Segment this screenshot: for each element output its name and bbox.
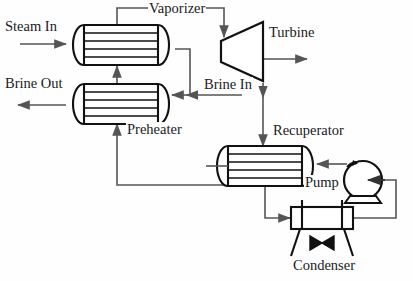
preheater-shell — [73, 84, 169, 124]
label-steam-in: Steam In — [4, 19, 58, 34]
label-recuperator: Recuperator — [272, 123, 345, 138]
stream-vaporizer-shell-down — [175, 49, 190, 95]
condenser-fan-icon — [310, 236, 334, 250]
equipment-vaporizer — [73, 25, 169, 65]
vaporizer-shell — [73, 25, 169, 65]
turbine-body — [221, 22, 263, 81]
condenser-leg-left — [291, 229, 300, 256]
equipment-recuperator — [206, 146, 313, 186]
equipment-condenser — [291, 200, 353, 256]
pump-base — [345, 196, 381, 203]
equipment-preheater — [73, 84, 169, 124]
label-brine-in: Brine In — [203, 77, 253, 92]
equipment-pump — [344, 160, 385, 203]
label-pump: Pump — [304, 175, 340, 190]
stream-recuperator-to-condenser — [265, 185, 290, 218]
label-vaporizer: Vaporizer — [148, 1, 206, 16]
condenser-shell — [291, 207, 353, 229]
process-flow-diagram: Steam In Vaporizer Turbine Brine Out Bri… — [0, 0, 413, 281]
equipment-turbine — [221, 22, 263, 81]
label-condenser: Condenser — [292, 258, 356, 273]
recuperator-shell — [217, 146, 313, 186]
label-turbine: Turbine — [268, 25, 315, 40]
pfd-canvas — [0, 0, 413, 281]
label-preheater: Preheater — [126, 122, 183, 137]
label-brine-out: Brine Out — [4, 76, 64, 91]
condenser-leg-right — [344, 229, 353, 256]
